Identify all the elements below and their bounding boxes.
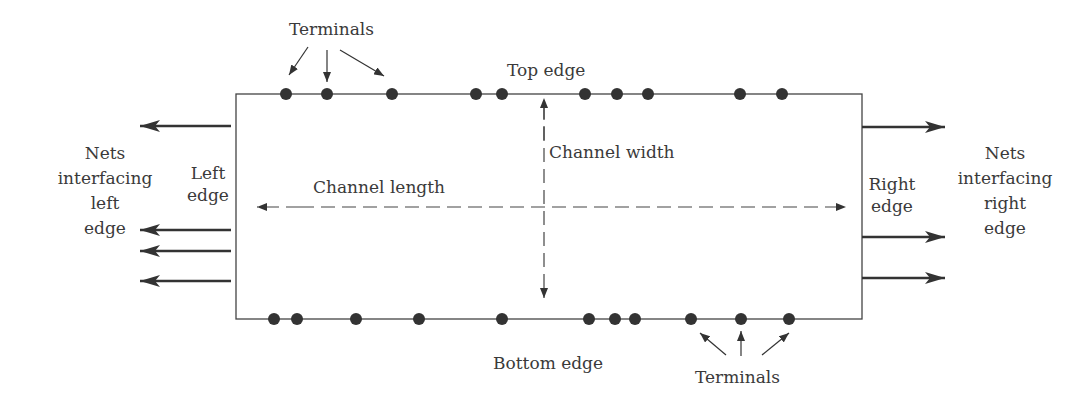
arrow-icon [340, 50, 384, 76]
terminal-dot [268, 313, 280, 325]
terminals-top-label: Terminals [289, 18, 374, 40]
terminal-dot [496, 313, 508, 325]
terminal-dot [280, 88, 292, 100]
right-edge-label: Right edge [862, 173, 922, 217]
terminal-dot [734, 88, 746, 100]
terminal-dot [350, 313, 362, 325]
terminal-dot [776, 88, 788, 100]
terminal-dot [609, 313, 621, 325]
terminal-dot [611, 88, 623, 100]
terminal-dot [470, 88, 482, 100]
bottom-edge-label: Bottom edge [493, 352, 603, 374]
terminal-dot [413, 313, 425, 325]
terminals-bottom-label: Terminals [695, 366, 780, 388]
terminal-dot [629, 313, 641, 325]
top-terminal-pointer-arrows [289, 47, 384, 82]
left-edge-label: Left edge [183, 162, 233, 206]
terminal-dot [783, 313, 795, 325]
channel-routing-diagram: Terminals Top edge Channel width Channel… [0, 0, 1088, 402]
terminal-dot [642, 88, 654, 100]
bottom-terminal-pointer-arrows [700, 331, 789, 356]
terminal-dot [291, 313, 303, 325]
nets-right-label: Nets interfacing right edge [940, 141, 1070, 241]
arrow-icon [762, 333, 789, 355]
channel-width-label: Channel width [549, 141, 675, 163]
nets-left-label: Nets interfacing left edge [50, 141, 160, 241]
terminal-dot [321, 88, 333, 100]
terminal-dot [496, 88, 508, 100]
terminal-dot [386, 88, 398, 100]
terminal-dot [583, 313, 595, 325]
terminal-dot [579, 88, 591, 100]
terminal-dot [685, 313, 697, 325]
arrow-icon [700, 333, 726, 355]
channel-length-label: Channel length [313, 176, 445, 198]
top-edge-label: Top edge [507, 59, 585, 81]
terminal-dot [735, 313, 747, 325]
arrow-icon [289, 47, 308, 75]
